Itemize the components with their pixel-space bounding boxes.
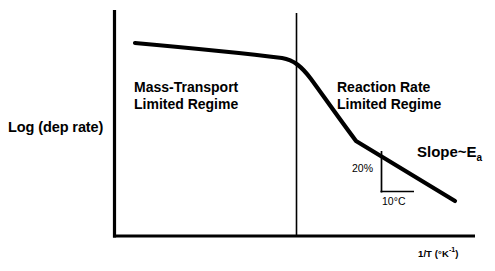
x-axis-title: 1/T (°K-1) [418,246,459,259]
reaction-rate-regime-line1: Reaction Rate [337,79,441,96]
slope-triangle-rise-label: 20% [352,162,373,174]
slope-annotation-text: Slope~E [417,143,477,160]
arrhenius-chart: Log (dep rate) 1/T (°K-1) Mass-Transport… [0,0,495,271]
deposition-rate-curve [135,43,455,201]
slope-triangle-run-label: 10°C [382,195,405,207]
x-axis-title-main: 1/T (°K [418,248,449,259]
x-axis-title-tail: ) [455,248,458,259]
mass-transport-regime-line1: Mass-Transport [134,79,238,96]
mass-transport-regime-label: Mass-TransportLimited Regime [134,79,238,112]
reaction-rate-regime-line2: Limited Regime [337,96,441,113]
slope-annotation: Slope~Ea [417,143,482,164]
slope-annotation-subscript: a [477,152,483,163]
mass-transport-regime-line2: Limited Regime [134,96,238,113]
y-axis-title: Log (dep rate) [8,119,103,136]
reaction-rate-regime-label: Reaction RateLimited Regime [337,79,441,112]
